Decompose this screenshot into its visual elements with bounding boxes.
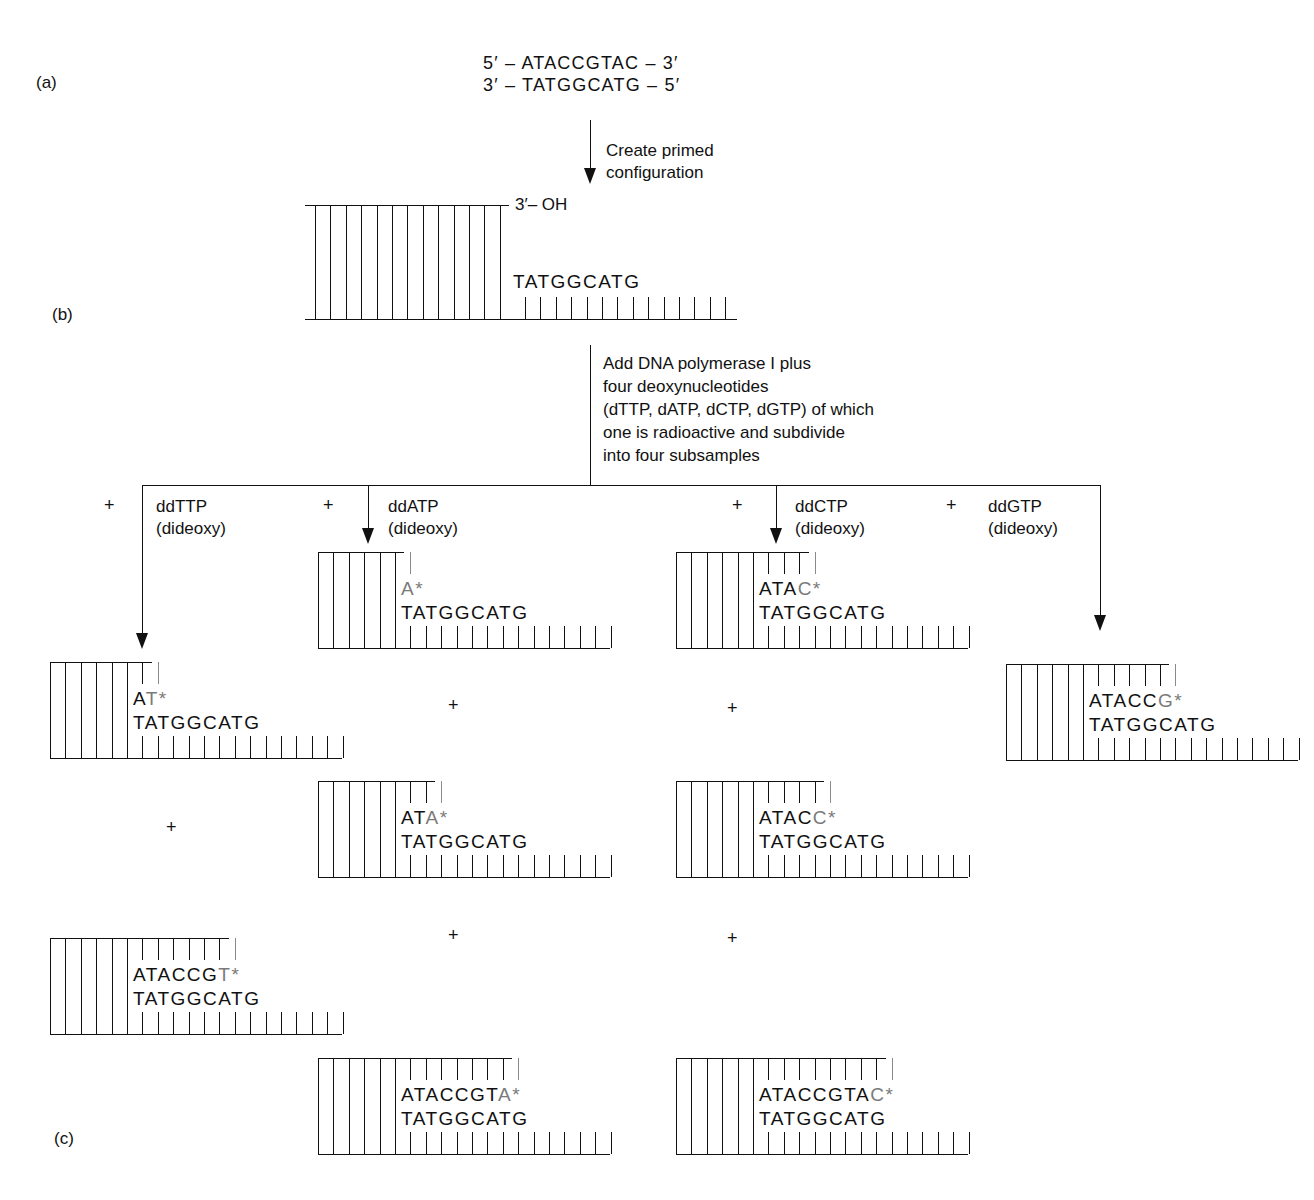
top-strand: 5′ – ATACCGTAC – 3′: [483, 52, 680, 74]
synth-bond: [1129, 664, 1130, 686]
base-pair-bond: [753, 1058, 754, 1154]
base-pair-bond: [500, 205, 501, 319]
template-strand: [318, 648, 610, 649]
template-base-tick: [580, 855, 581, 877]
template-strand: [1006, 760, 1298, 761]
template-base-tick: [327, 1012, 328, 1034]
template-base-tick: [441, 626, 442, 648]
base-pair-bond: [707, 781, 708, 877]
synth-bond: [784, 552, 785, 574]
plus-sign: +: [727, 927, 738, 949]
template-base-tick: [525, 297, 526, 319]
synth-bases: AT: [401, 807, 425, 828]
plus-sign: +: [323, 494, 334, 516]
template-base-tick: [969, 855, 970, 877]
template-base-tick: [1206, 738, 1207, 760]
branch-label-ddttp: ddTTP (dideoxy): [156, 496, 226, 540]
synth-bond: [441, 1058, 442, 1080]
plus-sign: +: [727, 697, 738, 719]
synth-bases: ATACCG: [133, 964, 218, 985]
base-pair-bond: [691, 1058, 692, 1154]
template-base-tick: [845, 1132, 846, 1154]
radioactive-bond: [892, 1058, 893, 1080]
synth-bond: [1114, 664, 1115, 686]
template-strand: [305, 319, 737, 320]
synth-bond: [799, 1058, 800, 1080]
template-strand: [50, 758, 342, 759]
template-base-tick: [266, 736, 267, 758]
branch-sub: (dideoxy): [795, 518, 865, 540]
template-base-tick: [503, 1132, 504, 1154]
template-strand: [50, 1034, 342, 1035]
primed-template: 3′– OH TATGGCATG: [305, 205, 745, 325]
template-base-tick: [815, 855, 816, 877]
synth-bond: [845, 1058, 846, 1080]
template-base-tick: [892, 1132, 893, 1154]
template-base-tick: [343, 736, 344, 758]
base-pair-bond: [691, 781, 692, 877]
base-pair-bond: [380, 552, 381, 648]
template-base-tick: [219, 1012, 220, 1034]
template-base-tick: [953, 1132, 954, 1154]
template-base-tick: [953, 855, 954, 877]
template-base-tick: [784, 855, 785, 877]
base-pair-bond: [364, 1058, 365, 1154]
synth-bond: [768, 1058, 769, 1080]
base-pair-bond: [96, 662, 97, 758]
branch-label-ddctp: ddCTP (dideoxy): [795, 496, 865, 540]
template-base-tick: [564, 1132, 565, 1154]
template-base-tick: [410, 1132, 411, 1154]
template-base-tick: [441, 1132, 442, 1154]
step2-label-line: Add DNA polymerase I plus: [603, 352, 874, 375]
step2-label-line: four deoxynucleotides: [603, 375, 874, 398]
template-base-tick: [518, 855, 519, 877]
template-base-tick: [694, 297, 695, 319]
template-base-tick: [1252, 738, 1253, 760]
template-sequence: TATGGCATG: [759, 602, 887, 624]
template-base-tick: [922, 626, 923, 648]
branch-name: ddCTP: [795, 496, 865, 518]
base-pair-bond: [349, 781, 350, 877]
base-pair-bond: [127, 662, 128, 758]
template-base-tick: [487, 855, 488, 877]
panel-label-c: (c): [54, 1128, 74, 1150]
base-pair-bond: [1021, 664, 1022, 760]
template-base-tick: [571, 297, 572, 319]
template-base-tick: [768, 855, 769, 877]
branch-name: ddGTP: [988, 496, 1058, 518]
base-pair-bond: [395, 781, 396, 877]
primer-strand: [676, 781, 824, 782]
template-base-tick: [587, 297, 588, 319]
template-base-tick: [204, 736, 205, 758]
base-pair-bond: [707, 1058, 708, 1154]
base-pair-bond: [50, 662, 51, 758]
template-base-tick: [564, 855, 565, 877]
synth-bases: ATAC: [759, 807, 813, 828]
template-base-tick: [876, 1132, 877, 1154]
template-sequence: TATGGCATG: [133, 988, 261, 1010]
template-base-tick: [907, 626, 908, 648]
base-pair-bond: [81, 662, 82, 758]
template-base-tick: [580, 626, 581, 648]
base-pair-bond: [318, 1058, 319, 1154]
radioactive-terminator: A*: [425, 807, 448, 828]
step2-label-line: one is radioactive and subdivide: [603, 421, 874, 444]
base-pair-bond: [454, 205, 455, 319]
template-sequence: TATGGCATG: [759, 1108, 887, 1130]
base-pair-bond: [676, 781, 677, 877]
base-pair-bond: [361, 205, 362, 319]
template-strand: [676, 648, 968, 649]
template-base-tick: [1129, 738, 1130, 760]
radioactive-bond: [815, 552, 816, 574]
base-pair-bond: [722, 1058, 723, 1154]
template-base-tick: [580, 1132, 581, 1154]
base-pair-bond: [318, 552, 319, 648]
synth-bond: [410, 781, 411, 803]
base-pair-bond: [423, 205, 424, 319]
template-base-tick: [595, 626, 596, 648]
template-base-tick: [235, 1012, 236, 1034]
template-base-tick: [876, 855, 877, 877]
synthesized-sequence: ATACCGT*: [133, 964, 240, 986]
template-base-tick: [173, 1012, 174, 1034]
template-base-tick: [1114, 738, 1115, 760]
